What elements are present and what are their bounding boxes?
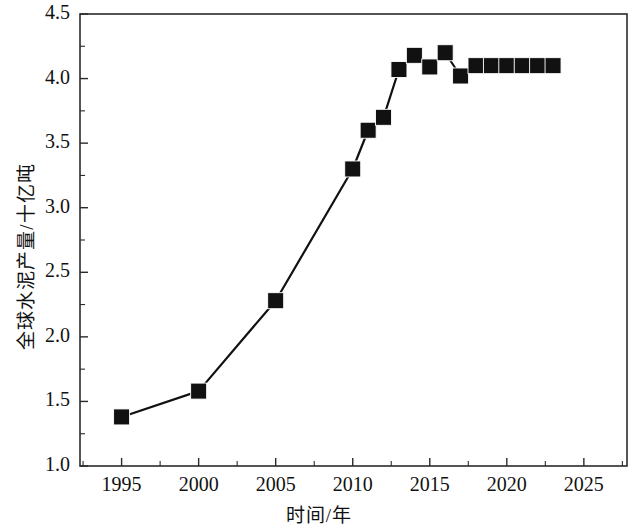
- data-point-marker: [514, 58, 530, 74]
- data-point-marker: [345, 161, 361, 177]
- data-point-marker: [376, 109, 392, 125]
- y-axis-tick-label: 4.0: [18, 66, 70, 89]
- x-axis-title: 时间/年: [0, 500, 638, 527]
- x-axis-tick-label: 2020: [475, 473, 539, 496]
- x-axis-tick-label: 2025: [552, 473, 616, 496]
- y-axis-tick-label: 1.5: [18, 388, 70, 411]
- data-point-marker: [391, 62, 407, 78]
- data-point-marker: [499, 58, 515, 74]
- x-axis-tick-label: 2015: [398, 473, 462, 496]
- data-point-marker: [360, 122, 376, 138]
- data-point-marker: [468, 58, 484, 74]
- y-axis-tick-label: 1.0: [18, 453, 70, 476]
- data-point-marker: [437, 45, 453, 61]
- data-point-marker: [453, 68, 469, 84]
- plot-frame-rect: [80, 14, 627, 466]
- data-point-marker: [406, 47, 422, 63]
- cement-production-chart-figure: 1.01.52.02.53.03.54.04.5 199520002005201…: [0, 0, 638, 530]
- y-axis-tick-label: 4.5: [18, 1, 70, 24]
- data-point-marker: [191, 383, 207, 399]
- chart-plot-area: [0, 0, 638, 530]
- plot-frame: [80, 14, 627, 466]
- data-point-marker: [422, 59, 438, 75]
- data-point-marker: [530, 58, 546, 74]
- y-axis-title: 全球水泥产量/十亿吨: [11, 132, 38, 382]
- data-point-marker: [483, 58, 499, 74]
- data-point-marker: [268, 293, 284, 309]
- x-axis-tick-label: 2000: [167, 473, 231, 496]
- x-axis-tick-label: 2005: [244, 473, 308, 496]
- x-axis-tick-label: 1995: [90, 473, 154, 496]
- x-axis-tick-label: 2010: [321, 473, 385, 496]
- data-point-marker: [545, 58, 561, 74]
- data-point-marker: [114, 409, 130, 425]
